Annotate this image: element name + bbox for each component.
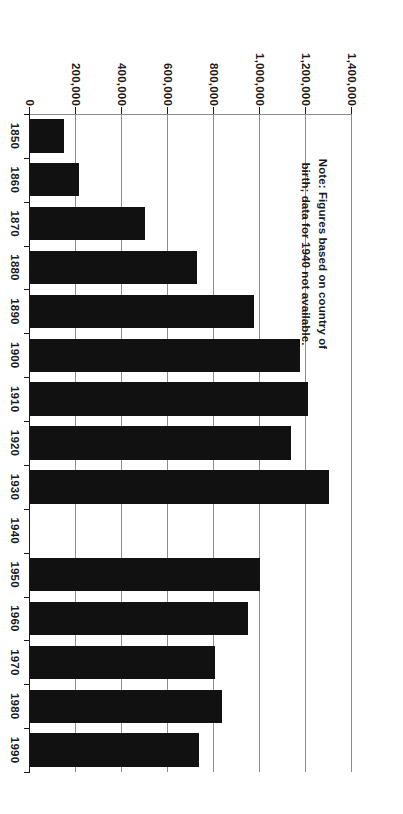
value-axis-tick-mark xyxy=(167,107,168,114)
category-label-1850: 1850 xyxy=(9,123,21,149)
category-axis-tick-mark xyxy=(24,772,30,773)
category-label-1960: 1960 xyxy=(9,605,21,631)
bar-1970[interactable] xyxy=(30,646,215,679)
value-axis-tick-label: 400,000 xyxy=(116,63,128,106)
value-axis-labels: 0200,000400,000600,000800,0001,000,0001,… xyxy=(30,26,352,106)
value-axis-tick-label: 800,000 xyxy=(208,63,220,106)
category-axis-tick-mark xyxy=(24,289,30,290)
category-label-1950: 1950 xyxy=(9,561,21,587)
category-axis-tick-mark xyxy=(24,246,30,247)
value-axis-tick-mark xyxy=(259,107,260,114)
chart-note: Note: Figures based on country of birth;… xyxy=(298,156,331,352)
bar-slot-1950 xyxy=(30,553,352,597)
value-axis-tick-mark xyxy=(351,107,352,114)
value-axis-tick-label: 1,400,000 xyxy=(346,53,358,106)
bar-1890[interactable] xyxy=(30,295,254,328)
category-label-1980: 1980 xyxy=(9,693,21,719)
bar-1870[interactable] xyxy=(30,207,145,240)
bar-chart-figure: 0200,000400,000600,000800,0001,000,0001,… xyxy=(0,0,403,814)
category-axis: 1850186018701880189019001910192019301940… xyxy=(0,114,30,772)
category-label-1900: 1900 xyxy=(9,342,21,368)
value-axis-tick-label: 200,000 xyxy=(70,63,82,106)
category-label-1930: 1930 xyxy=(9,474,21,500)
value-axis-tick-mark xyxy=(75,107,76,114)
category-label-1890: 1890 xyxy=(9,298,21,324)
bar-1860[interactable] xyxy=(30,163,79,196)
category-axis-tick-mark xyxy=(24,465,30,466)
category-label-1940: 1940 xyxy=(9,518,21,544)
category-label-1990: 1990 xyxy=(9,737,21,763)
bar-1930[interactable] xyxy=(30,470,329,503)
value-axis-tick-label: 1,200,000 xyxy=(300,53,312,106)
category-axis-tick-mark xyxy=(24,202,30,203)
bar-1920[interactable] xyxy=(30,426,291,459)
value-axis-tick-mark xyxy=(305,107,306,114)
category-axis-tick-mark xyxy=(24,597,30,598)
category-label-1880: 1880 xyxy=(9,254,21,280)
bar-1900[interactable] xyxy=(30,339,300,372)
bar-slot-1960 xyxy=(30,597,352,641)
bar-1980[interactable] xyxy=(30,690,222,723)
bar-1910[interactable] xyxy=(30,382,308,415)
value-axis-tick-label: 600,000 xyxy=(162,63,174,106)
bar-slot-1930 xyxy=(30,465,352,509)
bar-1880[interactable] xyxy=(30,251,197,284)
value-axis-tick-label: 1,000,000 xyxy=(254,53,266,106)
category-axis-tick-mark xyxy=(24,509,30,510)
category-label-1860: 1860 xyxy=(9,167,21,193)
bar-1850[interactable] xyxy=(30,119,65,152)
category-axis-tick-mark xyxy=(24,728,30,729)
category-axis-tick-mark xyxy=(24,640,30,641)
bar-slot-1970 xyxy=(30,640,352,684)
category-axis-tick-mark xyxy=(24,553,30,554)
value-axis-tick-mark xyxy=(213,107,214,114)
bar-slot-1940 xyxy=(30,509,352,553)
value-axis-tick-mark xyxy=(121,107,122,114)
bar-slot-1920 xyxy=(30,421,352,465)
category-axis-tick-mark xyxy=(24,377,30,378)
bar-slot-1850 xyxy=(30,114,352,158)
category-axis-tick-mark xyxy=(24,421,30,422)
category-label-1970: 1970 xyxy=(9,649,21,675)
bar-1950[interactable] xyxy=(30,558,260,591)
category-label-1920: 1920 xyxy=(9,430,21,456)
value-axis-tick-label: 0 xyxy=(24,99,36,106)
category-axis-tick-mark xyxy=(24,114,30,115)
category-label-1870: 1870 xyxy=(9,210,21,236)
category-axis-tick-mark xyxy=(24,684,30,685)
value-axis-tick-mark xyxy=(29,107,30,114)
rotated-figure-wrapper: 0200,000400,000600,000800,0001,000,0001,… xyxy=(0,0,403,814)
category-axis-tick-mark xyxy=(24,158,30,159)
bar-1960[interactable] xyxy=(30,602,249,635)
bar-slot-1980 xyxy=(30,684,352,728)
bar-slot-1910 xyxy=(30,377,352,421)
category-axis-tick-mark xyxy=(24,333,30,334)
bar-slot-1990 xyxy=(30,728,352,772)
category-label-1910: 1910 xyxy=(9,386,21,412)
bar-1990[interactable] xyxy=(30,733,199,766)
